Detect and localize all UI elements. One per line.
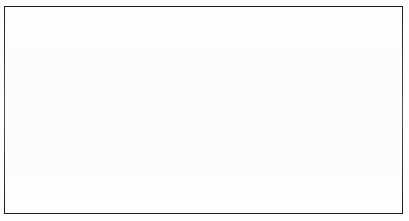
chart-page: Filet Crochet Pattern Chart Black-and-wh…: [0, 0, 409, 221]
chart-border-frame: [4, 6, 403, 214]
